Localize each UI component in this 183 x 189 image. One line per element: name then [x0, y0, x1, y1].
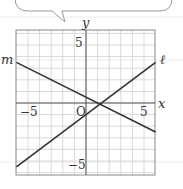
origin-label: O	[76, 106, 86, 118]
speech-bubble	[15, 0, 172, 22]
x-axis-label: x	[158, 97, 165, 110]
x-tick-5: 5	[140, 106, 148, 118]
graph-figure: y x O 5 −5 −5 5 m ℓ	[0, 0, 183, 189]
line-m-label: m	[1, 53, 13, 66]
y-tick-5: 5	[75, 37, 83, 49]
axes	[16, 30, 155, 175]
y-axis-label: y	[82, 16, 89, 29]
x-tick-neg5: −5	[20, 106, 38, 118]
y-tick-neg5: −5	[68, 159, 86, 171]
line-l-label: ℓ	[160, 53, 165, 66]
coordinate-plane	[0, 0, 183, 189]
